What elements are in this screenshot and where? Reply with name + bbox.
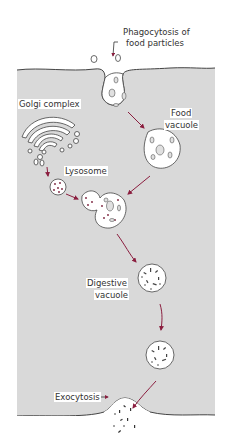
label-exocytosis: Exocytosis	[54, 392, 101, 402]
label-lysosome: Lysosome	[64, 166, 108, 176]
external-food-particles	[91, 55, 121, 63]
label-phagocytosis-line1: Phagocytosis of	[122, 27, 191, 37]
phagocytosis-arrow	[113, 42, 114, 56]
diagram-canvas	[0, 0, 230, 446]
label-golgi-complex: Golgi complex	[18, 99, 81, 109]
label-digestive-vacuole-line1: Digestive	[86, 278, 128, 288]
label-food-vacuole-line2: vacuole	[164, 120, 199, 130]
label-phagocytosis-line2: food particles	[125, 38, 185, 48]
label-food-vacuole-line1: Food	[170, 108, 192, 118]
food-vacuole	[144, 129, 180, 168]
digestive-vacuole	[138, 264, 166, 292]
residual-body	[146, 341, 174, 369]
label-digestive-vacuole-line2: vacuole	[94, 290, 129, 300]
lysosome	[50, 179, 66, 195]
